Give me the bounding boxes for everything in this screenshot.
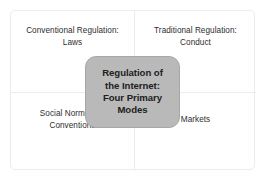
quadrant-top-right-label: Traditional Regulation: Conduct [135, 25, 256, 48]
center-concept-box: Regulation of the Internet: Four Primary… [85, 56, 180, 128]
center-line-1: Regulation of [102, 67, 163, 78]
quadrant-top-left-label: Conventional Regulation: Laws [11, 25, 134, 48]
quadrant-top-right-line-1: Traditional Regulation: [154, 26, 237, 35]
regulation-modes-diagram: Conventional Regulation: Laws Traditiona… [0, 0, 265, 184]
center-line-3: Four Primary [103, 92, 162, 103]
quadrant-top-left-line-1: Conventional Regulation: [26, 26, 119, 35]
center-concept-label: Regulation of the Internet: Four Primary… [86, 67, 179, 117]
center-line-4: Modes [117, 104, 147, 115]
center-line-2: the Internet: [105, 80, 160, 91]
quadrant-top-left-line-2: Laws [63, 38, 82, 47]
quadrant-top-right-line-2: Conduct [180, 38, 211, 47]
quadrant-bottom-right-line-1: Markets [181, 115, 210, 124]
